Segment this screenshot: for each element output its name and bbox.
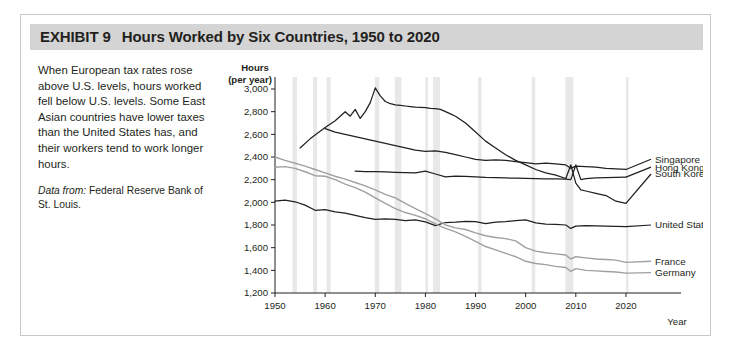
series-label-connector (626, 261, 651, 262)
y-axis-title-line2: (per year) (228, 74, 272, 85)
y-tick-label: 2,200 (244, 174, 268, 185)
x-axis-title: Year (667, 316, 687, 327)
y-tick-label: 2,600 (244, 129, 268, 140)
y-tick-label: 2,800 (244, 106, 268, 117)
series-label-connector (626, 225, 651, 227)
x-tick-label: 2000 (515, 300, 536, 311)
exhibit-title: Hours Worked by Six Countries, 1950 to 2… (122, 28, 440, 45)
series-line (325, 129, 626, 170)
series-label-connector (626, 273, 651, 274)
x-tick-label: 1990 (465, 300, 486, 311)
caption-text: When European tax rates rose above U.S. … (38, 63, 210, 172)
x-tick-label: 2020 (615, 300, 636, 311)
series-label-hong-kong: Hong Kong (655, 162, 703, 173)
y-tick-label: 2,000 (244, 197, 268, 208)
series-label-france: France (655, 256, 686, 267)
recession-band (565, 77, 573, 293)
x-tick-label: 1980 (415, 300, 436, 311)
y-tick-label: 1,600 (244, 242, 268, 253)
source-lead: Data from: (38, 185, 86, 196)
exhibit-title-bar: EXHIBIT 9Hours Worked by Six Countries, … (30, 24, 703, 50)
recession-band (327, 77, 331, 293)
page-title: EXHIBIT 9Hours Worked by Six Countries, … (40, 28, 440, 45)
recession-band (375, 77, 380, 293)
recession-band (313, 77, 317, 293)
recession-band (478, 77, 482, 293)
x-axis-ticks: 19501960197019801990200020102020 (264, 293, 636, 311)
recession-band (425, 77, 428, 293)
recession-band (395, 77, 402, 293)
y-tick-label: 1,200 (244, 287, 268, 298)
series-label-connector (626, 174, 651, 203)
series-label-connector (626, 167, 651, 177)
series-label-united-states: United States (655, 219, 703, 230)
caption-column: When European tax rates rose above U.S. … (38, 63, 210, 211)
caption-source: Data from: Federal Reserve Bank of St. L… (38, 184, 210, 211)
exhibit-frame: EXHIBIT 9Hours Worked by Six Countries, … (20, 14, 711, 336)
y-axis-title-line1: Hours (241, 62, 269, 73)
line-chart-svg: 1,2001,4001,6001,8002,0002,2002,4002,600… (217, 59, 703, 329)
recession-bands (293, 77, 629, 293)
series-label-germany: Germany (655, 267, 696, 278)
y-tick-label: 1,800 (244, 219, 268, 230)
chart: 1,2001,4001,6001,8002,0002,2002,4002,600… (217, 59, 703, 329)
x-tick-label: 1950 (264, 300, 285, 311)
y-tick-label: 2,400 (244, 151, 268, 162)
x-tick-label: 2010 (565, 300, 586, 311)
x-tick-label: 1970 (365, 300, 386, 311)
chart-series (275, 88, 651, 273)
y-axis-ticks: 1,2001,4001,6001,8002,0002,2002,4002,600… (244, 83, 275, 298)
recession-band (626, 77, 629, 293)
x-tick-label: 1960 (314, 300, 335, 311)
series-label-connector (626, 159, 651, 169)
recession-band (293, 77, 298, 293)
exhibit-number: EXHIBIT 9 (40, 28, 111, 45)
y-tick-label: 3,000 (244, 83, 268, 94)
series-labels: South KoreaSingaporeHong KongUnited Stat… (655, 154, 703, 278)
y-tick-label: 1,400 (244, 265, 268, 276)
recession-band (532, 77, 536, 293)
